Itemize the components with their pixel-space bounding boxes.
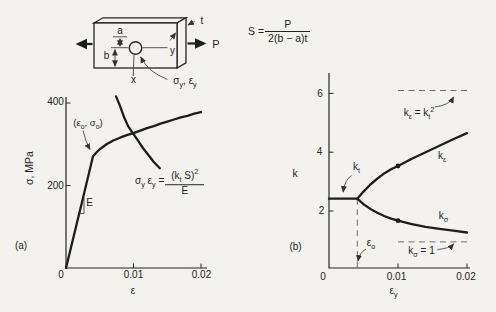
plot-b-xlabel: εy [389, 285, 397, 297]
plate-top-face [94, 18, 186, 23]
nominal-stress-equation: S = P 2(b − a)t [248, 19, 307, 43]
plot-a-ytick-400: 400 [47, 97, 64, 107]
equation-fraction: P 2(b − a)t [268, 19, 307, 43]
ke-asymptote-leader-arrow [435, 97, 454, 107]
eps0-annotation: εo [367, 237, 375, 249]
neuber-equation-denominator: E [181, 185, 188, 196]
thickness-leader-arrow [188, 22, 195, 26]
k-epsilon-curve [357, 133, 467, 199]
ke-annotation: kε [438, 151, 446, 163]
plot-b-panel-tag: (b) [289, 242, 301, 252]
plot-b-ylabel: k [292, 167, 297, 178]
y-axis-label: y [170, 46, 175, 56]
k-sigma-curve [357, 199, 467, 233]
ks-asymptote-label: kσ = 1 [408, 245, 434, 257]
equation-denominator: 2(b − a)t [268, 32, 307, 44]
plot-b-x-ticks [398, 264, 467, 269]
plot-a-ylabel: σ, MPa [24, 151, 35, 185]
ks-annotation: kσ [439, 210, 448, 222]
plot-a-panel-tag: (a) [15, 241, 27, 251]
plot-a-xtick-001: 0.01 [124, 270, 143, 280]
plot-b-xtick-002: 0.02 [456, 272, 475, 282]
plot-b-ytick-2: 2 [319, 206, 325, 216]
plot-a-ytick-200: 200 [47, 181, 64, 191]
neuber-equation-fraction: (kt S)2 E [168, 168, 201, 196]
knee-annotation: (εo, σo) [73, 117, 102, 130]
plot-a-y-ticks [66, 103, 71, 186]
neuber-equation-numerator: (kt S)2 [165, 168, 204, 185]
plot-b-xtick-001: 0.01 [387, 272, 406, 282]
plot-b-ytick-4: 4 [317, 147, 323, 157]
k-sigma-data-dot [396, 218, 401, 223]
neuber-equation-lhs: σy εy = [135, 176, 164, 188]
k-epsilon-data-dot [396, 164, 401, 169]
specimen-diagram [78, 18, 204, 80]
equation-lhs: S = [248, 26, 264, 37]
plot-b [329, 73, 470, 268]
plot-a-xlabel: ε [131, 286, 135, 296]
plate-right-face [177, 18, 186, 68]
hole [129, 42, 141, 54]
neuber-equation: σy εy = (kt S)2 E [135, 168, 201, 196]
ks-asymptote-leader-arrow [438, 244, 454, 250]
eps0-leader-arrow [358, 249, 366, 261]
plot-b-ytick-6: 6 [317, 89, 323, 99]
load-label: P [212, 38, 219, 49]
dim-a-label: a [117, 26, 123, 36]
modulus-annotation: E [86, 198, 93, 208]
figure-stress-concentration: a b t P x y σy, εy S = P 2(b − a)t σ, MP… [0, 0, 496, 312]
hole-stress-label: σy, εy [173, 76, 196, 88]
plot-a-xtick-002: 0.02 [192, 270, 211, 280]
plot-a-xtick-0: 0 [58, 270, 64, 280]
equation-numerator: P [265, 19, 310, 32]
x-axis-label: x [131, 75, 136, 85]
ke-asymptote-label: kε = kt2 [404, 105, 435, 120]
knee-leader-arrow [83, 131, 90, 150]
figure-drawing [0, 0, 496, 312]
kt-annotation: kt [353, 162, 360, 174]
thickness-label: t [201, 16, 204, 26]
plot-a-x-ticks [134, 264, 202, 269]
kt-leader-arrow [343, 176, 351, 193]
dim-b-label: b [104, 51, 110, 61]
plot-b-xtick-0: 0 [320, 272, 326, 282]
plot-b-y-ticks [329, 93, 334, 211]
